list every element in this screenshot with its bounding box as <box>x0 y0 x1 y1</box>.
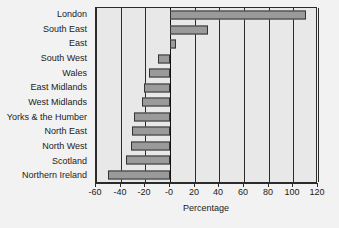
bar <box>142 98 170 107</box>
plot-area <box>95 7 317 183</box>
x-axis-tick-label: -0 <box>165 188 173 197</box>
bar-row <box>96 153 316 168</box>
bar-chart: London South East East South West Wales … <box>0 0 339 228</box>
y-axis-tick-label: London <box>57 10 87 19</box>
y-axis-tick-label: West Midlands <box>28 98 87 107</box>
bar-row <box>96 168 316 183</box>
y-axis-tick-south-west: South West <box>0 51 92 66</box>
x-axis-tick-label: 80 <box>263 188 273 197</box>
bar-row <box>96 23 316 38</box>
bar <box>158 54 170 63</box>
bar-row <box>96 124 316 139</box>
y-axis-tick-label: Wales <box>62 69 87 78</box>
bar-row <box>96 52 316 67</box>
bar <box>170 40 176 49</box>
bar-row <box>96 110 316 125</box>
y-axis-tick-wales: Wales <box>0 66 92 81</box>
bar <box>149 69 170 78</box>
bar-row <box>96 37 316 52</box>
x-axis-tick-label: -40 <box>113 188 126 197</box>
y-axis-tick-label: Scotland <box>52 157 87 166</box>
y-axis-tick-label: North West <box>42 142 87 151</box>
y-axis-tick-label: Yorks & the Humber <box>7 113 87 122</box>
y-axis-tick-north-west: North West <box>0 139 92 154</box>
y-axis-tick-south-east: South East <box>0 22 92 37</box>
bar <box>131 141 170 150</box>
y-axis-tick-label: South East <box>43 25 87 34</box>
y-axis-tick-label: Northern Ireland <box>22 171 87 180</box>
y-axis-tick-west-midlands: West Midlands <box>0 95 92 110</box>
x-axis-tick-label: 20 <box>189 188 199 197</box>
x-axis-tick-label: 100 <box>284 188 299 197</box>
y-axis-tick-east: East <box>0 36 92 51</box>
y-axis-tick-scotland: Scotland <box>0 154 92 169</box>
y-axis-tick-northern-ireland: Northern Ireland <box>0 168 92 183</box>
x-axis-tick-label: 60 <box>238 188 248 197</box>
y-axis-tick-label: East <box>69 39 87 48</box>
bar <box>126 156 170 165</box>
bar <box>170 25 208 34</box>
x-axis-tick-label: 120 <box>309 188 324 197</box>
y-axis-tick-north-east: North East <box>0 124 92 139</box>
x-axis-title: Percentage <box>95 204 317 213</box>
bar <box>134 112 170 121</box>
y-axis-tick-label: North East <box>44 127 87 136</box>
y-axis-tick-yorks-and-the-humber: Yorks & the Humber <box>0 110 92 125</box>
bar-row <box>96 81 316 96</box>
gridline <box>318 8 319 182</box>
bar-row <box>96 66 316 81</box>
x-axis-tick-label: -60 <box>88 188 101 197</box>
bar <box>108 170 170 179</box>
y-axis-category-labels: London South East East South West Wales … <box>0 7 92 183</box>
bar <box>132 127 170 136</box>
x-axis-line <box>95 183 317 184</box>
bar-row <box>96 95 316 110</box>
bar <box>144 83 170 92</box>
y-axis-tick-label: East Midlands <box>30 83 87 92</box>
bar-row <box>96 8 316 23</box>
bars-layer <box>96 8 316 182</box>
bar <box>170 11 306 20</box>
x-axis-tick-label: 40 <box>213 188 223 197</box>
y-axis-tick-london: London <box>0 7 92 22</box>
bar-row <box>96 139 316 154</box>
y-axis-tick-label: South West <box>41 54 87 63</box>
x-axis-tick-label: -20 <box>137 188 150 197</box>
y-axis-tick-east-midlands: East Midlands <box>0 80 92 95</box>
